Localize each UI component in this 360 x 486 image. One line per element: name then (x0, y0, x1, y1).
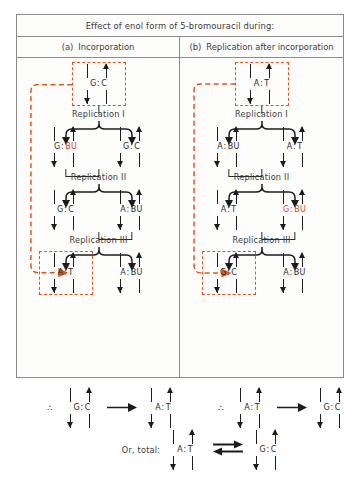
therefore-symbol-right: ∴ (218, 403, 224, 413)
strand-arrow-up-icon (136, 252, 142, 258)
base-right: C (134, 142, 140, 151)
strand-tick (320, 388, 321, 402)
base-pair-label: G:C (106, 143, 158, 151)
strand-arrow-up-icon (136, 189, 142, 195)
strand-arrow-down-icon (280, 224, 286, 230)
base-pair-label: A:BU (203, 143, 255, 151)
panel-a-gen2-pair-1: G:C (40, 189, 92, 231)
base-left: G (323, 403, 330, 412)
strand-tick (302, 153, 303, 167)
base-right: T (255, 403, 260, 412)
summary-right-arrow-icon (277, 399, 307, 418)
column-b-tag: (b) (189, 42, 201, 52)
strand-arrow-up-icon (299, 189, 305, 195)
column-a-label: Incorporation (78, 42, 134, 52)
base-right: BU (131, 205, 143, 214)
panel-b-gen2-pair-1: A:T (203, 189, 255, 231)
strand-arrow-down-icon (280, 287, 286, 293)
strand-arrow-down-icon (67, 422, 73, 428)
panel-a-gen1-pair-1: G:BU (40, 126, 92, 168)
strand-tick (139, 279, 140, 293)
strand-arrow-down-icon (237, 422, 243, 428)
strand-tick (217, 190, 218, 204)
summary-right-from-pair: A:T (226, 387, 278, 429)
base-pair-label: A:T (203, 206, 255, 214)
strand-arrow-up-icon (299, 126, 305, 132)
base-pair-label: A:T (269, 143, 321, 151)
strand-tick (236, 153, 237, 167)
summary-right-to-pair: G:C (306, 387, 358, 429)
base-pair-label: A:T (159, 446, 211, 454)
strand-tick (89, 414, 90, 428)
panel-a-replication-label-2: Replication II (71, 172, 127, 182)
summary-left-arrow-icon (107, 399, 137, 418)
strand-tick (139, 153, 140, 167)
panel-b-gen1-pair-1: A:BU (203, 126, 255, 168)
strand-tick (139, 216, 140, 230)
strand-arrow-up-icon (70, 189, 76, 195)
panel-b-result-highlight-box (202, 251, 256, 295)
panel-b-start-highlight-box (235, 62, 289, 106)
strand-arrow-down-icon (214, 161, 220, 167)
base-left: G (57, 205, 64, 214)
strand-arrow-up-icon (70, 126, 76, 132)
strand-arrow-down-icon (253, 464, 259, 470)
strand-tick (283, 253, 284, 267)
strand-arrow-up-icon (86, 387, 92, 393)
panel-a-gen1-pair-2: G:C (106, 126, 158, 168)
strand-tick (259, 414, 260, 428)
figure-title: Effect of enol form of 5-bromouracil dur… (17, 15, 343, 37)
column-header-a: (a) Incorporation (17, 37, 180, 58)
base-right: C (85, 403, 91, 412)
strand-tick (54, 190, 55, 204)
base-right: T (231, 205, 236, 214)
therefore-symbol-left: ∴ (47, 403, 53, 413)
base-right: BU (294, 205, 306, 214)
base-pair-label: G:C (56, 404, 108, 412)
strand-tick (256, 430, 257, 444)
base-right: T (297, 142, 302, 151)
strand-arrow-down-icon (280, 161, 286, 167)
panel-b-gen3-pair-2: A:BU (269, 252, 321, 294)
strand-tick (283, 127, 284, 141)
strand-tick (54, 127, 55, 141)
panel-b-gen2-pair-2: G:BU (269, 189, 321, 231)
panel-incorporation: G:CReplication I G:BUG:CReplication II G… (17, 58, 180, 377)
strand-tick (70, 388, 71, 402)
base-pair-label: A:BU (106, 206, 158, 214)
strand-tick (302, 279, 303, 293)
panel-a-gen2-pair-2: A:BU (106, 189, 158, 231)
base-pair-label: A:BU (269, 269, 321, 277)
base-left: G (283, 205, 290, 214)
base-pair-label: A:T (226, 404, 278, 412)
strand-arrow-up-icon (256, 387, 262, 393)
base-left: A (120, 205, 126, 214)
strand-tick (73, 216, 74, 230)
base-left: G (123, 142, 130, 151)
column-b-label: Replication after incorporation (206, 42, 333, 52)
strand-arrow-down-icon (317, 422, 323, 428)
base-pair-label: G:C (40, 206, 92, 214)
summary-left-to-pair: A:T (137, 387, 189, 429)
base-right: C (335, 403, 341, 412)
strand-arrow-down-icon (117, 224, 123, 230)
strand-tick (173, 430, 174, 444)
base-pair-label: A:T (137, 404, 189, 412)
base-right: T (166, 403, 171, 412)
strand-arrow-down-icon (117, 287, 123, 293)
base-right: C (68, 205, 74, 214)
base-pair-label: A:BU (106, 269, 158, 277)
figure-frame: Effect of enol form of 5-bromouracil dur… (16, 14, 344, 378)
panel-a-gen3-pair-2: A:BU (106, 252, 158, 294)
strand-tick (120, 127, 121, 141)
panel-b-replication-label-3: Replication III (232, 235, 290, 245)
panel-replication-after-incorporation: A:TReplication I A:BUA:TReplication II A… (180, 58, 343, 377)
or-total-label: Or, total: (122, 445, 161, 455)
strand-tick (151, 388, 152, 402)
base-right: BU (131, 268, 143, 277)
strand-arrow-up-icon (233, 189, 239, 195)
strand-arrow-down-icon (117, 161, 123, 167)
panel-a-start-highlight-box (72, 62, 126, 106)
panel-a-result-highlight-box (39, 251, 93, 295)
strand-tick (120, 253, 121, 267)
